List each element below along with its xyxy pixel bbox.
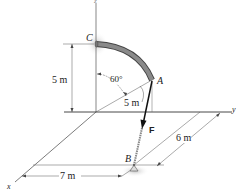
x-axis	[15, 112, 96, 182]
dim-radius-label: 5 m	[124, 98, 139, 108]
x-axis-label: x	[7, 183, 11, 191]
angle-label: 60°	[110, 75, 123, 84]
force-arrow-head	[141, 120, 147, 130]
point-c-label: C	[86, 33, 93, 43]
force-arrow-line	[144, 81, 153, 122]
dim-7m-label: 7 m	[60, 171, 75, 181]
point-b-label: B	[125, 154, 131, 164]
dim-height-label: 5 m	[52, 75, 67, 85]
force-label: F	[149, 126, 155, 135]
z-axis-label: z	[94, 0, 97, 5]
dim-6m-label: 6 m	[176, 133, 191, 143]
statics-diagram: z y x C A B F 5 m 60° 5 m 6 m 7 m	[0, 0, 238, 196]
y-axis-label: y	[232, 106, 236, 114]
diagram-svg	[0, 0, 238, 196]
point-a-label: A	[157, 76, 163, 86]
